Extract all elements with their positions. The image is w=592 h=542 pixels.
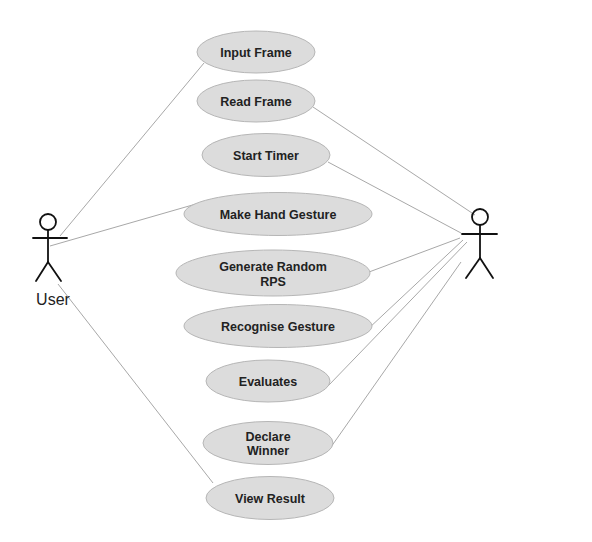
use-case-evaluates[interactable]: Evaluates [206, 360, 330, 402]
use-case-label-line-1: Generate Random [219, 260, 327, 274]
association-system-recognise-gesture [368, 240, 463, 329]
use-case-make-hand-gesture[interactable]: Make Hand Gesture [184, 193, 372, 236]
use-case-input-frame[interactable]: Input Frame [197, 31, 315, 73]
use-case-label-line-2: Winner [247, 444, 289, 458]
use-case-view-result[interactable]: View Result [206, 477, 334, 520]
use-case-label: Input Frame [220, 46, 292, 60]
use-case-label: Read Frame [220, 95, 292, 109]
use-case-label: View Result [235, 492, 306, 506]
actor-user[interactable]: User [33, 214, 71, 308]
use-case-recognise-gesture[interactable]: Recognise Gesture [184, 305, 372, 348]
use-case-generate-random-rps[interactable]: Generate Random RPS [176, 250, 370, 296]
stick-figure-icon [462, 209, 497, 278]
association-user-view-result [58, 284, 213, 483]
use-case-label: Evaluates [239, 375, 297, 389]
association-user-input-frame [60, 63, 204, 236]
use-case-label: Make Hand Gesture [220, 208, 337, 222]
use-case-start-timer[interactable]: Start Timer [202, 134, 330, 177]
actor-system[interactable] [462, 209, 497, 278]
stick-figure-icon [33, 214, 67, 281]
use-case-diagram: Input Frame Read Frame Start Timer Make … [0, 0, 592, 542]
association-system-declare-winner [331, 262, 461, 447]
use-case-declare-winner[interactable]: Declare Winner [203, 422, 333, 465]
use-case-label-line-1: Declare [245, 430, 290, 444]
use-case-label-line-2: RPS [260, 275, 286, 289]
association-user-make-hand-gesture [50, 204, 196, 246]
actor-user-label: User [36, 291, 70, 308]
use-case-label: Recognise Gesture [221, 320, 335, 334]
use-case-label: Start Timer [233, 149, 299, 163]
use-case-read-frame[interactable]: Read Frame [197, 80, 315, 122]
